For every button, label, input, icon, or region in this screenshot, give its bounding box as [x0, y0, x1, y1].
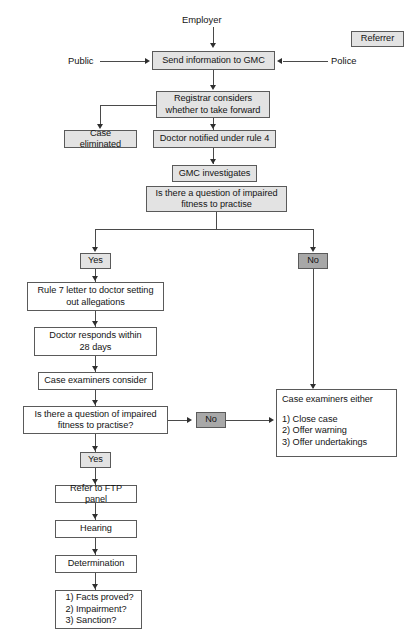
node-refer-to-ftp-panel: Refer to FTP panel	[55, 485, 137, 503]
node-no-1: No	[298, 253, 328, 269]
source-label-police: Police	[331, 55, 357, 66]
connector-public-to-send	[100, 61, 146, 62]
node-no-2: No	[196, 412, 226, 428]
arrowhead-send-to-registrar	[210, 85, 216, 90]
arrowhead-yes1-to-rule7	[92, 276, 98, 281]
case-examiners-either-heading: Case examiners either	[282, 394, 373, 406]
node-hearing: Hearing	[55, 520, 137, 538]
connector-police-to-send	[283, 61, 328, 62]
node-send-information-to-gmc: Send information to GMC	[152, 51, 275, 70]
node-case-eliminated: Case eliminated	[64, 130, 137, 148]
node-panel-questions: 1) Facts proved? 2) Impairment? 3) Sanct…	[55, 590, 142, 629]
node-referrer: Referrer	[351, 31, 404, 47]
flowchart-diagram: Employer Referrer Public Police Send inf…	[0, 0, 409, 643]
node-determination: Determination	[55, 555, 137, 573]
node-yes-2: Yes	[80, 452, 111, 468]
arrowhead-question2-to-no2	[187, 417, 192, 423]
node-question-impaired-fitness-2: Is there a question of impaired fitness …	[23, 406, 168, 434]
arrowhead-rule7-to-doctor-responds	[92, 321, 98, 326]
node-registrar-considers: Registrar considers whether to take forw…	[156, 91, 270, 118]
arrowhead-case-examiners-to-question2	[92, 400, 98, 405]
arrowhead-doctor-to-gmc-investigates	[210, 159, 216, 164]
node-rule7-letter: Rule 7 letter to doctor setting out alle…	[27, 282, 164, 311]
connector-registrar-to-case-eliminated-horizontal	[100, 105, 157, 106]
source-label-employer: Employer	[182, 14, 222, 25]
source-label-public: Public	[68, 55, 94, 66]
arrowhead-refer-ftp-to-hearing	[92, 514, 98, 519]
arrowhead-question1-to-yes	[92, 247, 98, 252]
node-case-examiners-either: Case examiners either 1) Close case 2) O…	[276, 389, 397, 457]
arrowhead-registrar-to-doctor-notified	[210, 124, 216, 129]
connector-registrar-to-case-eliminated-vertical	[100, 105, 101, 126]
node-question-impaired-fitness-1: Is there a question of impaired fitness …	[146, 186, 287, 212]
node-doctor-responds: Doctor responds within 28 days	[34, 327, 157, 356]
connector-question1-to-yes	[95, 229, 96, 249]
connector-question1-split	[95, 229, 313, 230]
arrowhead-question1-to-no	[310, 247, 316, 252]
arrowhead-no2-to-case-examiners-either	[269, 417, 274, 423]
arrowhead-employer-to-send	[210, 43, 216, 48]
connector-question1-stem	[216, 212, 217, 230]
connector-no1-to-case-examiners-either	[313, 269, 314, 388]
arrowhead-determination-to-panel-questions	[92, 584, 98, 589]
arrowhead-hearing-to-determination	[92, 549, 98, 554]
arrowhead-doctor-responds-to-case-examiners	[92, 366, 98, 371]
connector-no2-to-case-examiners-either	[226, 420, 270, 421]
connector-question2-to-no2	[168, 420, 188, 421]
arrowhead-public-to-send	[145, 58, 150, 64]
connector-question1-to-no	[313, 229, 314, 249]
node-gmc-investigates: GMC investigates	[172, 165, 257, 182]
arrowhead-question2-to-yes2	[92, 446, 98, 451]
node-yes-1: Yes	[80, 253, 111, 269]
node-case-examiners-consider: Case examiners consider	[38, 372, 153, 390]
arrowhead-police-to-send	[277, 58, 282, 64]
node-doctor-notified: Doctor notified under rule 4	[153, 130, 276, 148]
case-examiners-either-options: 1) Close case 2) Offer warning 3) Offer …	[282, 414, 367, 449]
